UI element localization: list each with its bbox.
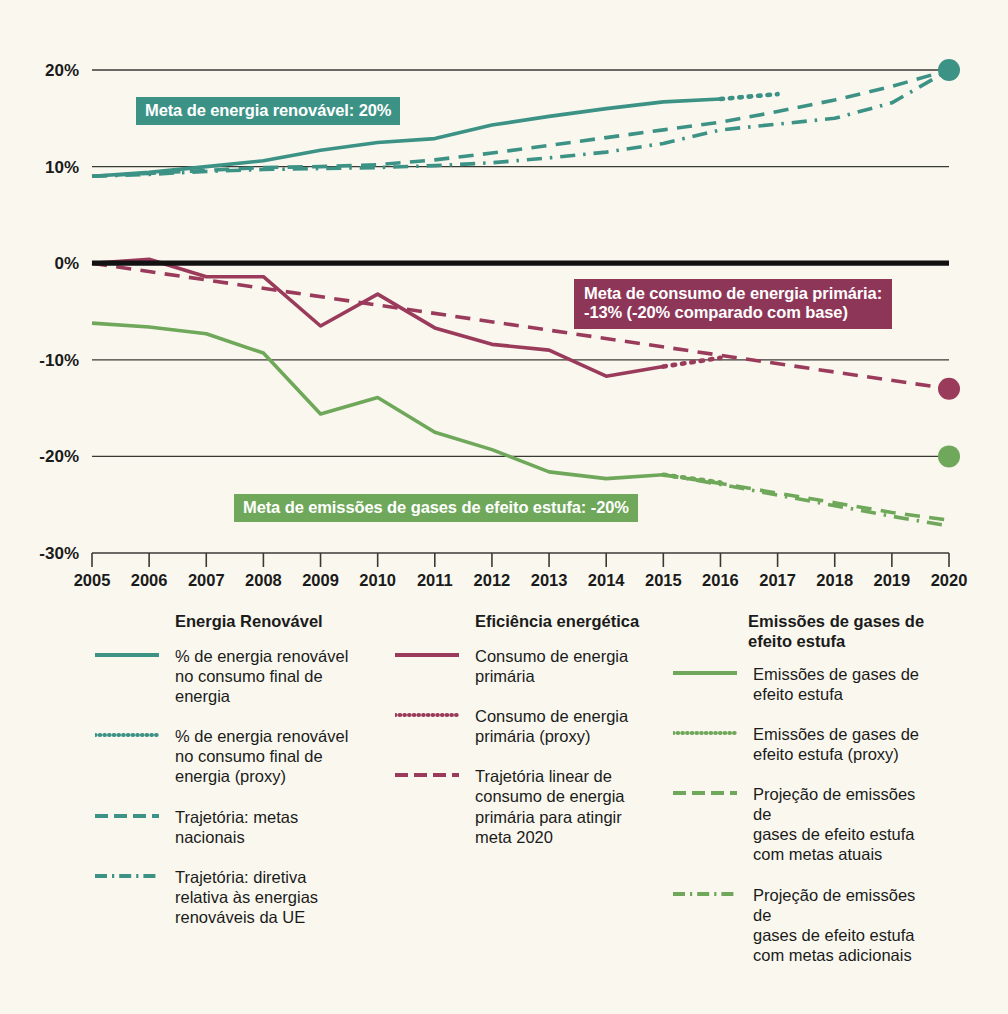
legend-line-swatch-dashdot — [673, 884, 737, 904]
legend-items: Emissões de gases de efeito estufaEmissõ… — [673, 663, 938, 966]
legend-line-swatch-solid — [95, 645, 159, 665]
infographic-root: 20%10%0%-10%-20%-30% 2005200620072008200… — [0, 0, 1008, 1014]
legend-title: Emissões de gases de efeito estufa — [748, 612, 938, 652]
legend-line-swatch-dotted — [673, 723, 737, 743]
legend-line-swatch-dashed — [95, 806, 159, 826]
legend-item[interactable]: Projeção de emissões de gases de efeito … — [673, 884, 938, 966]
x-tick-label: 2008 — [245, 571, 282, 589]
x-tick-label: 2011 — [417, 571, 453, 589]
legend-line-swatch-dashdot — [95, 866, 159, 886]
legend-item[interactable]: Projeção de emissões de gases de efeito … — [673, 783, 938, 865]
x-tick-label: 2009 — [302, 571, 339, 589]
chart-area: 20%10%0%-10%-20%-30% 2005200620072008200… — [0, 0, 1008, 600]
series-line-10 — [663, 475, 949, 526]
x-tick-label: 2017 — [759, 571, 796, 589]
legend-item-label: Emissões de gases de efeito estufa — [753, 663, 919, 704]
x-tick-label: 2005 — [74, 571, 111, 589]
meta-primary-energy-2020 — [938, 378, 960, 400]
legend-line-swatch-solid — [395, 645, 459, 665]
x-tick-label: 2006 — [131, 571, 168, 589]
legend-line-swatch-solid — [673, 663, 737, 683]
legend-item[interactable]: % de energia renovável no consumo final … — [95, 645, 365, 706]
legend-item[interactable]: Trajetória: diretiva relativa às energia… — [95, 866, 365, 927]
x-tick-label: 2012 — [474, 571, 511, 589]
legend-item[interactable]: Trajetória: metas nacionais — [95, 806, 365, 847]
x-tick-label: 2007 — [188, 571, 225, 589]
legend-item[interactable]: Emissões de gases de efeito estufa — [673, 663, 938, 704]
legend-item[interactable]: Consumo de energia primária — [395, 645, 645, 686]
banner-primary-energy-target: Meta de consumo de energia primária: -13… — [574, 279, 892, 329]
legend-line-swatch-dotted — [395, 705, 459, 725]
x-tick-label: 2018 — [816, 571, 853, 589]
legend-title: Eficiência energética — [475, 612, 645, 632]
legend-item-label: Projeção de emissões de gases de efeito … — [753, 783, 938, 865]
x-tick-label: 2014 — [588, 571, 626, 589]
legend-title: Energia Renovável — [175, 612, 365, 632]
legend-item-label: Trajetória: diretiva relativa às energia… — [175, 866, 318, 927]
banner-emissions-target: Meta de emissões de gases de efeito estu… — [234, 494, 638, 522]
x-axis — [92, 553, 949, 567]
y-tick-label: 10% — [45, 158, 79, 177]
legend-column-renewable: Energia Renovável % de energia renovável… — [95, 612, 365, 946]
legend-items: % de energia renovável no consumo final … — [95, 645, 365, 927]
legend-item[interactable]: Emissões de gases de efeito estufa (prox… — [673, 723, 938, 764]
legend-item-label: % de energia renovável no consumo final … — [175, 645, 348, 706]
y-tick-label: -30% — [39, 544, 79, 563]
y-tick-label: 20% — [45, 61, 79, 80]
meta-emissions-2020 — [938, 445, 960, 467]
y-tick-label: -20% — [39, 447, 79, 466]
legend-item-label: Trajetória linear de consumo de energia … — [475, 765, 625, 847]
x-tick-label: 2016 — [702, 571, 739, 589]
legend-column-emissions: Emissões de gases de efeito estufa Emiss… — [673, 612, 938, 984]
legend-column-efficiency: Eficiência energética Consumo de energia… — [395, 612, 645, 866]
legend-item-label: % de energia renovável no consumo final … — [175, 725, 348, 786]
y-tick-label: 0% — [54, 254, 79, 273]
chart-legend: Energia Renovável % de energia renovável… — [0, 612, 1008, 1014]
y-tick-label: -10% — [39, 351, 79, 370]
legend-item[interactable]: Trajetória linear de consumo de energia … — [395, 765, 645, 847]
series-line-1 — [720, 94, 777, 99]
legend-line-swatch-dotted — [95, 725, 159, 745]
x-tick-label: 2020 — [931, 571, 968, 589]
legend-item-label: Consumo de energia primária (proxy) — [475, 705, 628, 746]
meta-renewable-2020 — [938, 59, 960, 81]
x-axis-tick-labels: 2005200620072008200920102011201220132014… — [74, 571, 968, 589]
banner-renewable-target: Meta de energia renovável: 20% — [136, 97, 400, 125]
legend-item[interactable]: % de energia renovável no consumo final … — [95, 725, 365, 786]
legend-item-label: Emissões de gases de efeito estufa (prox… — [753, 723, 919, 764]
x-tick-label: 2019 — [874, 571, 911, 589]
legend-item-label: Trajetória: metas nacionais — [175, 806, 298, 847]
series-line-7 — [92, 323, 663, 479]
legend-item-label: Projeção de emissões de gases de efeito … — [753, 884, 938, 966]
x-tick-label: 2013 — [531, 571, 568, 589]
legend-items: Consumo de energia primáriaConsumo de en… — [395, 645, 645, 847]
legend-item-label: Consumo de energia primária — [475, 645, 628, 686]
legend-line-swatch-dashed — [395, 765, 459, 785]
x-tick-label: 2010 — [359, 571, 396, 589]
legend-line-swatch-dashed — [673, 783, 737, 803]
legend-item[interactable]: Consumo de energia primária (proxy) — [395, 705, 645, 746]
x-tick-label: 2015 — [645, 571, 682, 589]
y-axis-tick-labels: 20%10%0%-10%-20%-30% — [39, 61, 79, 563]
